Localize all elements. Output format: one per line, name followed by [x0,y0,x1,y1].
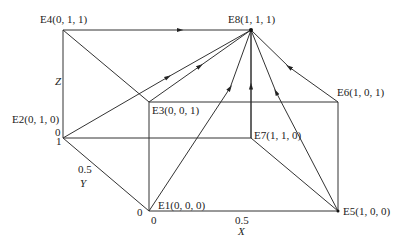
tick-x-0: 0 [151,214,157,226]
axis-y-label: Y [80,177,88,189]
cube-edges [63,30,338,211]
label-E7: E7(1, 1, 0) [254,129,301,142]
arrow-E6-E8 [289,67,338,102]
label-E1: E1(0, 0, 0) [158,199,205,212]
axis-x-label: X [237,225,246,237]
arrow-E5-E8 [276,92,338,211]
tick-y-05: 0.5 [78,163,92,175]
node-E8-dot [249,28,253,32]
node-E5-dot [337,210,340,213]
edge-E2-E1 [63,138,149,211]
axis-z-label: Z [55,75,62,87]
edge-E7-E5 [251,138,338,211]
tick-y-1: 1 [56,135,62,147]
label-E4: E4(0, 1, 1) [40,13,87,26]
tick-y-0: 0 [137,206,143,218]
label-E2: E2(0, 1, 0) [12,113,59,126]
arrows-to-E8 [63,30,338,211]
label-E6: E6(1, 0, 1) [337,86,384,99]
edge-E4-E3 [63,30,149,102]
label-E8: E8(1, 1, 1) [228,13,275,26]
label-E3: E3(0, 0, 1) [152,104,199,117]
label-E5: E5(1, 0, 0) [343,205,390,218]
cube-diagram: E4(0, 1, 1) E8(1, 1, 1) E3(0, 0, 1) E6(1… [0,0,401,249]
